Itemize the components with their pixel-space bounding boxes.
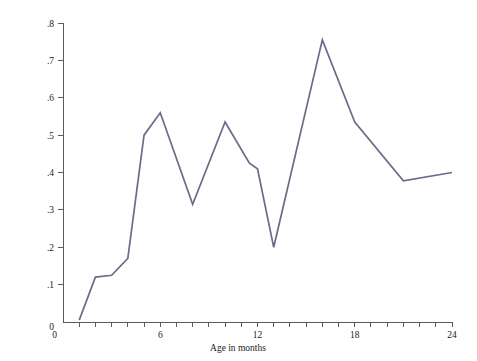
data-series-group [79,40,452,320]
x-tick-label: 0 [52,330,57,340]
x-tick-label: 24 [447,330,457,340]
y-tick-label: .7 [47,56,54,66]
y-tick-label: .4 [47,168,54,178]
y-tick-group [58,23,63,285]
y-tick-label: .5 [47,131,54,141]
chart-canvas: 0.1.2.3.4.5.6.7.8 06121824 Age in months… [0,0,477,361]
x-tick-label: 6 [158,330,163,340]
data-series-line [79,40,452,320]
y-tick-label: .1 [47,280,54,290]
y-tick-label: .6 [47,93,54,103]
x-tick-label: 18 [350,330,360,340]
x-tick-label-group: 06121824 [52,330,457,340]
y-tick-label: .3 [47,205,54,215]
line-chart: 0.1.2.3.4.5.6.7.8 06121824 Age in months… [0,0,477,361]
x-axis: 06121824 [52,322,457,340]
x-tick-group [79,322,452,327]
x-axis-title: Age in months [210,343,266,353]
y-tick-label: .8 [47,19,54,29]
x-tick-label: 12 [253,330,263,340]
y-tick-label-group: 0.1.2.3.4.5.6.7.8 [47,19,54,333]
y-tick-label: .2 [47,243,54,253]
y-axis: 0.1.2.3.4.5.6.7.8 [47,19,63,333]
